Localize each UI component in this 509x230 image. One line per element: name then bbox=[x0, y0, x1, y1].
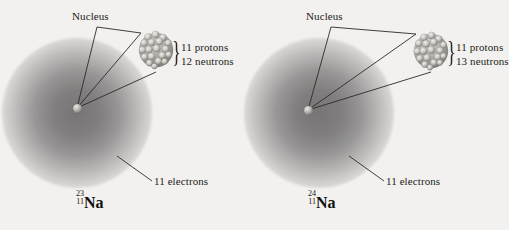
electrons-label: 11 electrons bbox=[386, 175, 440, 188]
electrons-label: 11 electrons bbox=[154, 175, 208, 188]
atomic-number: 11 bbox=[308, 198, 316, 206]
atomic-number: 11 bbox=[76, 198, 84, 206]
nucleus-dot bbox=[73, 104, 82, 113]
particle-counts: 11 protons 13 neutrons bbox=[456, 40, 509, 68]
neutrons-label: 12 neutrons bbox=[181, 54, 234, 68]
isotope-numbers: 23 11 bbox=[72, 192, 84, 208]
nucleus-label: Nucleus bbox=[72, 10, 109, 23]
particle-counts: 11 protons 12 neutrons bbox=[181, 40, 234, 68]
element-symbol: Na bbox=[316, 195, 336, 211]
leader-lines bbox=[0, 0, 242, 230]
atom-diagram-sodium-23: Nucleus } 11 protons 12 neutrons 11 elec… bbox=[0, 0, 242, 230]
isotope-notation: 23 11 Na bbox=[72, 192, 104, 211]
atom-diagram-sodium-24: Nucleus } 11 protons 13 neutrons 11 elec… bbox=[242, 0, 484, 230]
protons-label: 11 protons bbox=[456, 40, 509, 54]
element-symbol: Na bbox=[84, 195, 104, 211]
nucleus-label: Nucleus bbox=[306, 10, 343, 23]
protons-label: 11 protons bbox=[181, 40, 234, 54]
particle-brace: } bbox=[447, 36, 456, 66]
nucleus-cluster-magnified bbox=[413, 31, 449, 71]
isotope-notation: 24 11 Na bbox=[304, 192, 336, 211]
particle-brace: } bbox=[172, 36, 181, 66]
nucleus-dot bbox=[304, 106, 313, 115]
nucleus-cluster-magnified bbox=[138, 30, 174, 70]
isotope-numbers: 24 11 bbox=[304, 192, 316, 208]
neutrons-label: 13 neutrons bbox=[456, 54, 509, 68]
